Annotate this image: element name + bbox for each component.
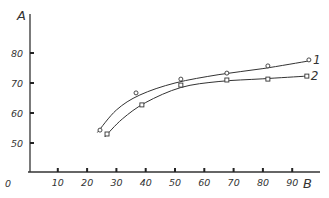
- x-ticks: 102030405060708090: [52, 168, 298, 188]
- x-axis-title: B: [303, 176, 312, 191]
- x-tick-label: 40: [140, 177, 152, 188]
- series-curves: [97, 61, 309, 137]
- series-label-2: 2: [311, 69, 319, 83]
- x-tick-label: 60: [198, 177, 210, 188]
- circle-marker: [225, 71, 229, 75]
- series-labels: 12: [311, 53, 321, 83]
- x-tick-label: 70: [228, 177, 240, 188]
- y-tick-label: 70: [11, 78, 23, 89]
- square-marker: [105, 132, 109, 136]
- circle-marker: [307, 58, 311, 62]
- square-marker: [225, 78, 229, 82]
- x-tick-label: 80: [257, 177, 269, 188]
- circle-marker: [179, 77, 183, 81]
- circle-marker: [98, 128, 102, 132]
- x-tick-label: 30: [110, 177, 122, 188]
- curve-series-1: [97, 61, 309, 133]
- circle-marker: [266, 64, 270, 68]
- square-marker: [140, 103, 144, 107]
- series-markers: [98, 58, 311, 136]
- x-tick-label: 20: [81, 177, 93, 188]
- square-marker: [305, 74, 309, 78]
- y-axis-title: A: [16, 8, 26, 23]
- x-tick-label: 90: [286, 177, 298, 188]
- y-tick-label: 80: [11, 48, 23, 59]
- square-marker: [266, 77, 270, 81]
- y-tick-label: 60: [11, 108, 23, 119]
- chart: A B 0 102030405060708090 50607080 12: [0, 0, 329, 198]
- series-label-1: 1: [313, 53, 321, 67]
- origin-label: 0: [5, 178, 11, 189]
- square-marker: [179, 83, 183, 87]
- x-tick-label: 50: [169, 177, 181, 188]
- curve-series-2: [105, 76, 307, 137]
- x-tick-label: 10: [52, 177, 64, 188]
- y-tick-label: 50: [11, 138, 23, 149]
- circle-marker: [134, 91, 138, 95]
- axes: A B 0: [5, 8, 320, 191]
